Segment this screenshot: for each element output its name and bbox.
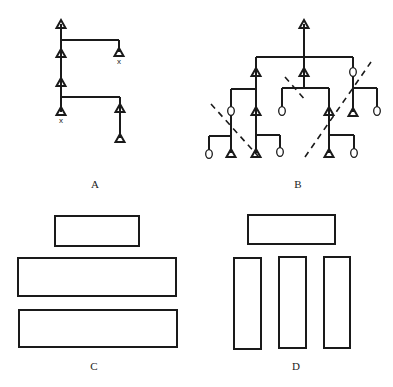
block-tall-2 — [279, 257, 306, 348]
circle-node-icon — [351, 149, 358, 158]
circle-node-icon — [279, 107, 286, 116]
dashed-cut-line — [305, 62, 371, 157]
circle-node-icon — [277, 148, 284, 157]
circle-node-icon — [374, 107, 381, 116]
panel-label-a: A — [91, 178, 99, 190]
block-wide-1 — [18, 258, 176, 296]
block-top — [55, 216, 139, 246]
panel-label-c: C — [90, 360, 97, 372]
block-wide-2 — [19, 310, 177, 347]
panel-label-d: D — [292, 360, 300, 372]
circle-node-icon — [350, 68, 357, 77]
x-mark-icon: x — [117, 57, 121, 66]
panel-label-b: B — [294, 178, 301, 190]
circle-node-icon — [206, 150, 213, 159]
panel-c-diagram — [18, 216, 177, 347]
figure-canvas: x x — [0, 0, 393, 387]
x-mark-icon: x — [59, 116, 63, 125]
block-top — [248, 215, 335, 244]
panel-a-diagram: x x — [57, 20, 125, 142]
panel-b-diagram — [206, 20, 381, 158]
block-tall-1 — [234, 258, 261, 349]
panel-d-diagram — [234, 215, 350, 349]
circle-node-icon — [228, 107, 235, 116]
block-tall-3 — [324, 257, 350, 348]
